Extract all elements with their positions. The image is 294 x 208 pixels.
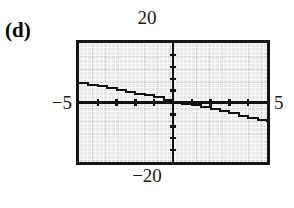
figure-panel: (d) 20 −20 −5 5	[0, 0, 294, 208]
plot-area	[79, 43, 267, 162]
window-xmin-label: −5	[44, 93, 72, 113]
window-ymin-label: −20	[0, 166, 294, 186]
window-ymax-label: 20	[0, 8, 294, 28]
plot-svg	[79, 43, 267, 162]
calculator-screen	[76, 40, 270, 165]
window-xmax-label: 5	[274, 93, 294, 113]
